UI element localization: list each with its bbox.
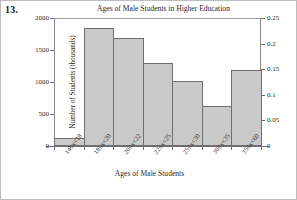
y-tick-right: 0.1	[261, 91, 297, 99]
bar	[84, 28, 115, 146]
x-tick	[172, 146, 173, 150]
x-tick	[84, 146, 85, 150]
x-tick	[202, 146, 203, 150]
chart-title: Ages of Male Students in Higher Educatio…	[51, 4, 276, 13]
y-tick-left: 2000	[15, 14, 54, 22]
y-tick-right: 0	[261, 142, 297, 150]
x-tick	[261, 146, 262, 150]
y-tick-left: 0	[15, 142, 54, 150]
figure-container: 13. Ages of Male Students in Higher Educ…	[0, 0, 297, 200]
y-tick-right: 0.05	[261, 116, 297, 124]
x-tick	[54, 146, 55, 150]
y-axis-label-left: Number of Students (thousands)	[69, 17, 77, 147]
y-tick-left: 1000	[15, 78, 54, 86]
y-tick-right: 0.15	[261, 65, 297, 73]
plot-area: Number of Students (thousands) Relative …	[54, 18, 261, 146]
y-tick-right: 0.2	[261, 40, 297, 48]
y-tick-right: 0.25	[261, 14, 297, 22]
y-tick-left: 1500	[15, 46, 54, 54]
y-tick-left: 500	[15, 110, 54, 118]
x-tick	[231, 146, 232, 150]
x-tick	[113, 146, 114, 150]
x-axis-label: Ages of Male Students	[1, 169, 297, 178]
x-tick	[143, 146, 144, 150]
bar	[113, 38, 144, 146]
